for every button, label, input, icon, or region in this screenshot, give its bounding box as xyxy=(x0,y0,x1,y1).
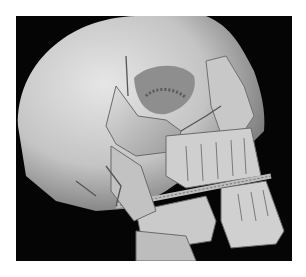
chin xyxy=(221,181,284,248)
ct-skull-render xyxy=(16,16,292,261)
skull-illustration xyxy=(16,16,292,261)
